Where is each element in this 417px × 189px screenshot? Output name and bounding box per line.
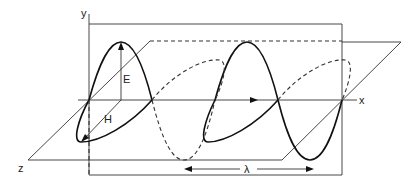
em-wave-diagram: y x z E H λ: [0, 0, 417, 189]
electric-field-wave-hidden: [152, 100, 215, 160]
z-axis-label: z: [18, 162, 24, 174]
magnetic-field-wave-2: [204, 100, 278, 142]
xy-plane: [89, 14, 342, 175]
magnetic-field-label: H: [104, 113, 112, 125]
magnetic-field-wave: [77, 100, 152, 142]
electric-field-label: E: [123, 73, 130, 85]
y-axis-label: y: [81, 7, 87, 19]
wavelength-label: λ: [244, 163, 250, 175]
x-axis: [78, 97, 357, 103]
magnetic-field-wave-hidden: [152, 60, 224, 100]
magnetic-field-wave-hidden-2: [278, 60, 350, 100]
x-axis-label: x: [359, 94, 365, 106]
electric-field-wave-lower: [278, 100, 342, 160]
h-vector-arrow: [81, 100, 121, 142]
diagram-canvas: y x z E H λ: [0, 0, 417, 189]
